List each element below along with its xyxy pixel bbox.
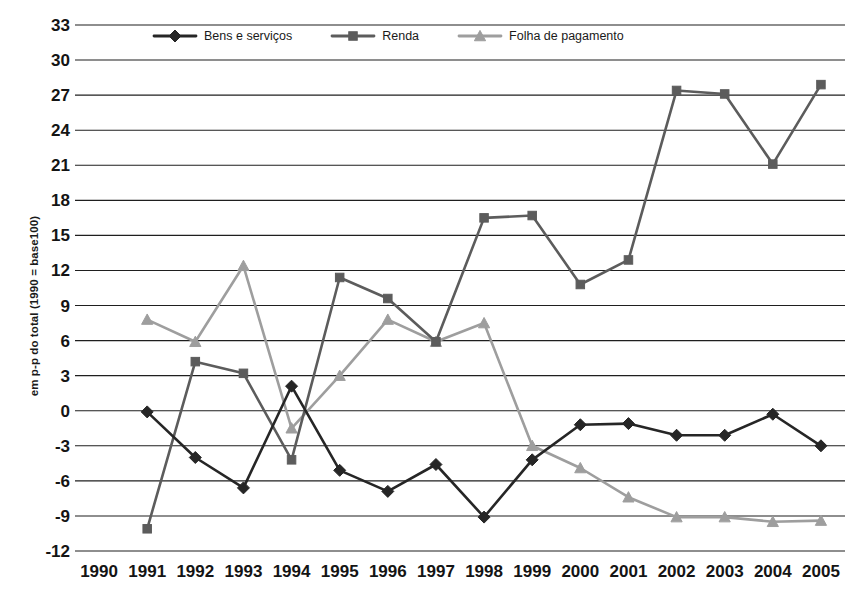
data-point [576,280,585,289]
data-point [432,338,441,347]
x-axis-tick-label: 2004 [754,562,792,582]
series-1 [141,380,827,523]
x-axis-tick-label: 1999 [513,562,551,582]
data-point [624,256,633,264]
x-axis-tick-label: 1992 [176,562,214,582]
data-point [528,211,537,220]
data-point [623,492,634,502]
legend-marker-diamond-icon [152,28,198,44]
legend-label: Folha de pagamento [509,29,624,43]
x-axis-tick-label: 1993 [225,562,263,582]
data-point [719,429,731,441]
data-point [720,90,729,99]
x-axis-tick-label: 1997 [417,562,455,582]
x-axis-tick-label: 1998 [465,562,503,582]
plot-area [0,0,862,614]
legend-label: Bens e serviços [204,29,292,43]
data-point [143,525,152,534]
data-point [622,418,634,430]
line-chart: em p-p do total (1990 = base100) 3330272… [0,0,862,614]
data-point [335,273,344,282]
chart-legend: Bens e serviçosRendaFolha de pagamento [152,25,624,47]
x-axis-tick-label: 2000 [561,562,599,582]
legend-item-2: Renda [330,28,419,44]
data-point [191,357,200,366]
data-point [671,429,683,441]
legend-marker-square-icon [330,28,376,44]
series-2 [143,80,825,533]
data-point [769,160,778,169]
legend-item-3: Folha de pagamento [457,28,624,44]
data-point [817,80,826,89]
data-point [382,485,394,497]
data-point [238,260,249,270]
data-point [672,86,681,95]
x-axis-tick-label: 1994 [273,562,311,582]
legend-item-1: Bens e serviços [152,28,292,44]
data-point [142,314,153,324]
data-point [239,369,248,378]
data-point [382,314,393,324]
x-axis-tick-label: 1991 [128,562,166,582]
x-axis-tick-label: 2001 [610,562,648,582]
data-point [480,214,489,223]
data-point [478,317,489,327]
legend-label: Renda [382,29,419,43]
x-axis-tick-label: 1995 [321,562,359,582]
x-axis-tick-label: 2005 [802,562,840,582]
x-axis-tick-label: 2002 [658,562,696,582]
data-point [237,482,249,494]
x-axis-tick-label: 1990 [80,562,118,582]
data-point [384,294,393,303]
x-axis-tick-label: 1996 [369,562,407,582]
data-point [286,380,298,392]
legend-marker-triangle-icon [457,28,503,44]
gridlines [75,25,845,551]
data-point [334,464,346,476]
data-point [287,456,296,465]
x-axis-tick-label: 2003 [706,562,744,582]
